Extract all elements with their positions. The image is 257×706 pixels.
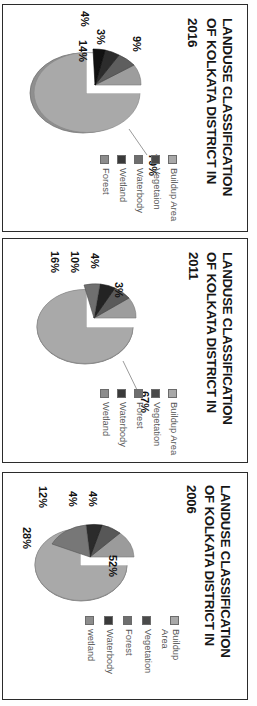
legend-label: wetland — [86, 629, 97, 661]
panel-2016-title-line1: LANDUSE CLASSIFICATION — [220, 18, 235, 196]
panel-2011-title-line2: OF KOLKATA DISTRICT IN — [204, 252, 219, 413]
legend-item-forest[interactable]: Forest — [134, 389, 145, 461]
panel-2006-title: LANDUSE CLASSIFICATION OF KOLKATA DISTRI… — [183, 485, 233, 689]
legend-swatch-icon — [170, 616, 179, 625]
panel-2011-chart — [5, 247, 171, 397]
panel-2006-title-line2: OF KOLKATA DISTRICT IN — [202, 485, 217, 646]
panel-2011-title: LANDUSE CLASSIFICATION OF KOLKATA DISTRI… — [185, 252, 235, 452]
pie-2011-label-3: 3% — [113, 282, 125, 298]
panel-2016-chart — [5, 9, 175, 159]
figure-page: LANDUSE CLASSIFICATION OF KOLKATA DISTRI… — [0, 0, 257, 706]
panel-2016-title-line2: OF KOLKATA DISTRICT IN — [204, 18, 219, 184]
pie-2011-label-16: 16% — [49, 251, 61, 273]
legend-swatch-icon — [168, 389, 177, 398]
pie-2016-exploded-slices — [93, 49, 141, 85]
legend-label: Vegetation — [143, 629, 154, 673]
legend-item-waterbody[interactable]: Waterbody — [117, 389, 128, 461]
legend-swatch-icon — [117, 155, 126, 164]
legend-swatch-icon — [100, 389, 109, 398]
panel-2011-title-year: 2011 — [185, 252, 201, 452]
legend-label: Forest — [124, 629, 135, 656]
legend-item-buildup-area[interactable]: Buildup Area — [159, 616, 181, 694]
panel-2006-title-line1: LANDUSE CLASSIFICATION — [218, 485, 233, 658]
legend-swatch-icon — [134, 389, 143, 398]
pie-2016-label-14: 14% — [77, 40, 89, 62]
pie-2016-label-3: 3% — [95, 29, 107, 45]
panel-2006-legend: Buildup Area Vegetation Forest Waterbody — [79, 616, 181, 694]
pie-2011-svg — [5, 247, 171, 397]
panel-2016-legend: Buildup Area Vegetaion Waterbody Wetland — [94, 155, 179, 229]
legend-item-vegetation[interactable]: Vegetation — [142, 616, 153, 694]
legend-label: Forest — [100, 168, 111, 195]
legend-item-waterbody[interactable]: Waterbody — [134, 155, 145, 229]
legend-swatch-icon — [104, 616, 113, 625]
legend-swatch-icon — [85, 616, 94, 625]
legend-swatch-icon — [168, 155, 177, 164]
panel-2006-title-year: 2006 — [183, 485, 199, 689]
legend-label: Vegetaion — [151, 168, 162, 210]
panel-2016-title: LANDUSE CLASSIFICATION OF KOLKATA DISTRI… — [184, 18, 235, 218]
legend-swatch-icon — [123, 616, 132, 625]
pie-2006-label-4a: 4% — [67, 491, 79, 507]
pie-2016-leader-line — [129, 129, 147, 155]
legend-item-wetland[interactable]: wetland — [85, 616, 96, 694]
legend-label: Waterbody — [105, 629, 116, 674]
panel-2011-legend: Buildup Area Vegetation Forest Waterbody — [94, 389, 179, 461]
legend-item-buildup-area[interactable]: Buildup Area — [168, 389, 179, 461]
legend-swatch-icon — [142, 616, 151, 625]
legend-item-waterbody[interactable]: Waterbody — [104, 616, 115, 694]
legend-item-wetland[interactable]: Wetland — [117, 155, 128, 229]
legend-swatch-icon — [151, 389, 160, 398]
pie-2006-label-12: 12% — [37, 486, 49, 508]
legend-swatch-icon — [134, 155, 143, 164]
panel-2016: LANDUSE CLASSIFICATION OF KOLKATA DISTRI… — [2, 4, 248, 232]
legend-label: Waterbody — [134, 168, 145, 213]
legend-item-buildup-area[interactable]: Buildup Area — [168, 155, 179, 229]
panel-2016-title-year: 2016 — [184, 18, 200, 218]
legend-item-forest[interactable]: Forest — [123, 616, 134, 694]
legend-label: Buildup Area — [168, 168, 179, 221]
pie-2006-label-4b: 4% — [87, 491, 99, 507]
pie-2011-label-4: 4% — [89, 253, 101, 269]
legend-swatch-icon — [100, 155, 109, 164]
panel-2011-title-line1: LANDUSE CLASSIFICATION — [220, 252, 235, 425]
pie-2006-label-52: 52% — [107, 555, 119, 577]
panel-2006-chart — [5, 495, 161, 635]
legend-swatch-icon — [151, 155, 160, 164]
legend-label: Wetland — [117, 168, 128, 202]
legend-swatch-icon — [117, 389, 126, 398]
pie-2011-label-10: 10% — [69, 251, 81, 273]
legend-item-vegetation[interactable]: Vegetaion — [151, 155, 162, 229]
pie-2006-svg — [5, 495, 161, 635]
legend-label: Waterbody — [117, 402, 128, 447]
panel-2011: LANDUSE CLASSIFICATION OF KOLKATA DISTRI… — [2, 238, 248, 463]
legend-item-forest[interactable]: Forest — [100, 155, 111, 229]
legend-label: Wetland — [100, 402, 111, 436]
legend-item-vegetation[interactable]: Vegetation — [151, 389, 162, 461]
legend-label: Buildup Area — [159, 629, 181, 660]
pie-2016-label-9: 9% — [131, 36, 143, 52]
legend-label: Forest — [134, 402, 145, 429]
legend-item-wetland[interactable]: Wetland — [100, 389, 111, 461]
pie-2006-label-28: 28% — [21, 527, 33, 549]
legend-label: Vegetation — [151, 402, 162, 446]
pie-2016-svg — [5, 9, 175, 159]
pie-2016-label-4: 4% — [79, 11, 91, 27]
legend-label: Buildup Area — [168, 402, 179, 455]
panel-2006: LANDUSE CLASSIFICATION OF KOLKATA DISTRI… — [2, 472, 248, 700]
